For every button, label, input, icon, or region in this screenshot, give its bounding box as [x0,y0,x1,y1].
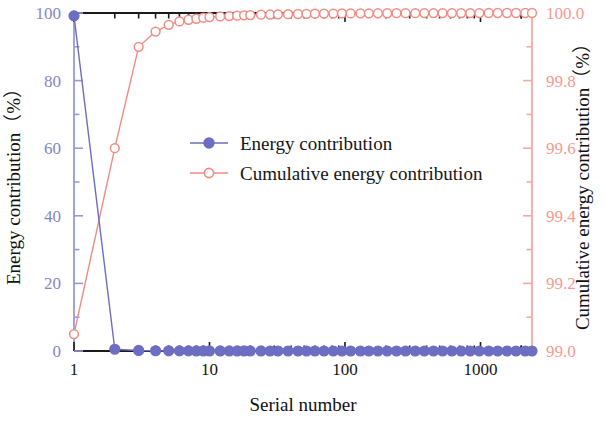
data-point-open-circle [420,9,429,18]
data-point-open-circle [110,144,119,153]
data-point-filled-circle [527,346,537,356]
y2-axis-title: Cumulative energy contribution（%） [572,34,593,330]
legend-label-cumulative-energy-contribution: Cumulative energy contribution [240,163,483,184]
y-axis-title: Energy contribution（%） [3,79,24,285]
y2-tick-label: 99.0 [546,342,576,361]
x-tick-label: 100 [332,360,358,379]
x-tick-label: 1000 [463,360,497,379]
legend-item-cumulative: Cumulative energy contribution [190,163,483,184]
data-point-open-circle [175,17,184,26]
data-point-open-circle [364,9,373,18]
data-point-open-circle [320,9,329,18]
data-point-open-circle [134,42,143,51]
y-tick-label: 80 [44,72,61,91]
x-tick-label: 1 [70,360,79,379]
data-point-open-circle [164,20,173,29]
data-point-open-circle [457,9,466,18]
data-point-filled-circle [419,346,429,356]
chart-plot-area: 1101001000 020406080100 99.099.299.499.6… [0,0,606,430]
data-point-open-circle [475,9,484,18]
legend-marker-filled-circle [204,138,214,148]
data-point-filled-circle [134,345,144,355]
data-point-open-circle [346,9,355,18]
data-point-open-circle [512,9,521,18]
data-point-filled-circle [283,346,293,356]
data-point-open-circle [284,10,293,19]
chart-figure: 1101001000 020406080100 99.099.299.499.6… [0,0,606,430]
data-point-open-circle [411,9,420,18]
data-point-open-circle [503,9,512,18]
data-point-filled-circle [511,346,521,356]
data-point-open-circle [429,9,438,18]
right-axis-ticks [523,13,532,351]
data-point-filled-circle [151,346,161,356]
data-point-filled-circle [438,346,448,356]
data-point-filled-circle [401,346,411,356]
data-point-open-circle [374,9,383,18]
y2-tick-label: 100.0 [546,4,584,23]
y-tick-label: 100 [36,4,62,23]
y-tick-labels: 020406080100 [36,4,62,361]
data-point-filled-circle [373,346,383,356]
data-point-open-circle [257,10,266,19]
data-point-filled-circle [447,346,457,356]
data-point-open-circle [70,330,79,339]
data-point-open-circle [392,9,401,18]
data-point-open-circle [302,9,311,18]
data-point-filled-circle [204,346,214,356]
data-point-open-circle [383,9,392,18]
data-point-open-circle [466,9,475,18]
legend-item-energy: Energy contribution [190,133,393,154]
y-tick-label: 60 [44,139,61,158]
data-point-open-circle [329,9,338,18]
x-tick-labels: 1101001000 [70,360,498,379]
legend-label-energy-contribution: Energy contribution [240,133,393,154]
data-point-open-circle [311,9,320,18]
x-tick-label: 10 [201,360,218,379]
data-point-open-circle [438,9,447,18]
data-point-open-circle [246,11,255,20]
data-point-filled-circle [164,346,174,356]
data-point-open-circle [338,9,347,18]
data-point-filled-circle [69,11,79,21]
y-tick-label: 0 [53,342,62,361]
legend-marker-open-circle [204,168,213,177]
data-point-open-circle [274,10,283,19]
data-point-filled-circle [319,346,329,356]
data-point-open-circle [447,9,456,18]
y-tick-label: 20 [44,274,61,293]
data-point-open-circle [401,9,410,18]
data-point-filled-circle [474,346,484,356]
data-point-open-circle [205,13,214,22]
data-point-filled-circle [245,346,255,356]
data-point-open-circle [216,12,225,21]
data-point-open-circle [493,9,502,18]
legend: Energy contribution Cumulative energy co… [190,133,483,184]
data-point-filled-circle [110,344,120,354]
data-point-filled-circle [346,346,356,356]
x-axis-title: Serial number [249,394,357,415]
data-point-filled-circle [273,346,283,356]
data-point-open-circle [294,10,303,19]
data-point-filled-circle [493,346,503,356]
data-point-open-circle [484,9,493,18]
data-point-open-circle [356,9,365,18]
y-tick-label: 40 [44,207,61,226]
data-point-open-circle [528,9,537,18]
data-point-filled-circle [382,346,392,356]
data-point-open-circle [151,27,160,36]
